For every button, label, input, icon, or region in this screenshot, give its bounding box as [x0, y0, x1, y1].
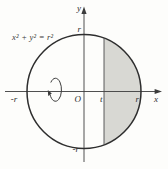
x-left-tick-label: -r [11, 94, 18, 104]
origin-label: O [75, 94, 82, 104]
equation-label: x² + y² = r² [11, 32, 54, 42]
rotation-arrow-icon [48, 78, 62, 101]
x-axis-label: x [153, 94, 158, 104]
y-axis-label: y [76, 3, 81, 13]
y-bottom-tick-label: -r [73, 144, 80, 154]
circle-rotation-diagram: x² + y² = r² y r -r O t r x -r [0, 0, 168, 169]
y-axis-arrow-icon [81, 7, 86, 15]
x-right-tick-label: r [135, 94, 139, 104]
t-tick-label: t [100, 94, 103, 104]
y-top-tick-label: r [77, 24, 81, 34]
diagram-svg: x² + y² = r² y r -r O t r x -r [0, 0, 168, 169]
